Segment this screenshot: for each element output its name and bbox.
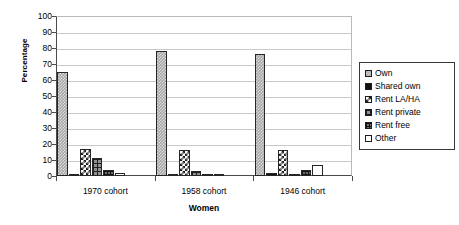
legend-item-label: Rent private (375, 108, 421, 117)
bar (202, 174, 213, 176)
y-axis-tick-mark (52, 112, 56, 113)
bar (103, 170, 114, 176)
bar (92, 158, 103, 176)
y-axis-tick-label: 70 (28, 60, 52, 68)
plot-area (56, 16, 352, 176)
bar (115, 173, 126, 176)
x-axis-tick-mark (56, 176, 57, 181)
y-axis-tick-label: 100 (28, 12, 52, 20)
gridline (57, 81, 351, 82)
y-axis-tick-label: 60 (28, 76, 52, 84)
gridline (57, 49, 351, 50)
y-axis-tick-mark (52, 80, 56, 81)
y-axis-tick-label: 20 (28, 140, 52, 148)
x-axis-tick-label: 1970 cohort (50, 186, 160, 196)
y-axis-tick-mark (52, 128, 56, 129)
bar (168, 174, 179, 176)
bar (57, 72, 68, 176)
gridline (57, 97, 351, 98)
x-axis-tick-label: 1946 cohort (248, 186, 358, 196)
legend-item: Rent private (365, 106, 451, 119)
y-axis-tick-label: 40 (28, 108, 52, 116)
legend-item-label: Shared own (375, 82, 420, 91)
bar (312, 165, 323, 176)
legend-item-label: Own (375, 69, 392, 78)
x-axis-title: Women (56, 203, 352, 213)
y-axis-tick-label: 80 (28, 44, 52, 52)
gridline (57, 65, 351, 66)
y-axis-tick-mark (52, 48, 56, 49)
y-axis-tick-mark (52, 144, 56, 145)
gridline (57, 33, 351, 34)
y-axis-tick-mark (52, 16, 56, 17)
legend-item: Own (365, 67, 451, 80)
x-axis-tick-mark (155, 176, 156, 181)
legend-swatch-icon (365, 109, 372, 116)
y-axis-tick-mark (52, 32, 56, 33)
y-axis-tick-label: 30 (28, 124, 52, 132)
y-axis-tick-mark (52, 96, 56, 97)
legend-item-label: Rent free (375, 121, 410, 130)
bar (80, 149, 91, 176)
legend-item: Shared own (365, 80, 451, 93)
x-axis-tick-mark (352, 176, 353, 181)
legend-swatch-icon (365, 83, 372, 90)
legend-item-label: Other (375, 134, 396, 143)
x-axis-tick-label: 1958 cohort (149, 186, 259, 196)
legend-item: Rent LA/HA (365, 93, 451, 106)
bar (179, 150, 190, 176)
bar (301, 170, 312, 176)
legend-item: Rent free (365, 119, 451, 132)
bar (214, 174, 225, 176)
y-axis-tick-label: 0 (28, 172, 52, 180)
gridline (57, 129, 351, 130)
y-axis-tick-label: 90 (28, 28, 52, 36)
legend-swatch-icon (365, 70, 372, 77)
bar (255, 54, 266, 176)
legend-item-label: Rent LA/HA (375, 95, 420, 104)
y-axis-tick-label: 10 (28, 156, 52, 164)
bar (278, 150, 289, 176)
gridline (57, 113, 351, 114)
y-axis-tick-label: 50 (28, 92, 52, 100)
y-axis-tick-mark (52, 160, 56, 161)
bar (69, 174, 80, 176)
legend-swatch-icon (365, 122, 372, 129)
legend-item: Other (365, 132, 451, 145)
y-axis-tick-mark (52, 64, 56, 65)
bar (191, 171, 202, 176)
x-axis-tick-mark (253, 176, 254, 181)
gridline (57, 145, 351, 146)
bar (156, 51, 167, 176)
bar (266, 173, 277, 176)
legend: OwnShared ownRent LA/HARent privateRent … (359, 62, 455, 150)
legend-swatch-icon (365, 135, 372, 142)
y-axis: 1009080706050403020100 (0, 16, 52, 176)
legend-swatch-icon (365, 96, 372, 103)
bar-chart: Percentage 1009080706050403020100 Women … (0, 0, 459, 225)
bar (289, 174, 300, 176)
